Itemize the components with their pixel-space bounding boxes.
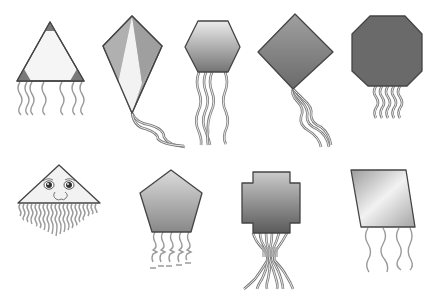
kite-tails bbox=[293, 89, 332, 147]
diamond-kite bbox=[103, 16, 185, 147]
kite-tails bbox=[150, 232, 191, 268]
pupil-left bbox=[46, 182, 52, 188]
triangle-kite bbox=[17, 22, 84, 115]
kite-body bbox=[18, 165, 100, 203]
kite-tails bbox=[366, 228, 413, 272]
kite-body bbox=[258, 14, 333, 89]
kite-body bbox=[242, 172, 300, 233]
kite-tails bbox=[196, 72, 228, 145]
pupil-right bbox=[66, 182, 72, 188]
square-diamond-kite bbox=[258, 14, 333, 147]
tail-knot bbox=[262, 247, 278, 257]
corner-accent bbox=[45, 22, 55, 31]
kite-fringe bbox=[19, 204, 97, 236]
hexagon-kite bbox=[185, 21, 240, 145]
kite-body bbox=[185, 21, 240, 72]
octagon-kite bbox=[352, 16, 422, 118]
cross-kite bbox=[242, 172, 300, 289]
kite-tails bbox=[244, 233, 293, 289]
kite-tails bbox=[132, 113, 185, 147]
kite-body bbox=[351, 170, 415, 227]
kite-body bbox=[140, 170, 202, 232]
face-triangle-kite bbox=[18, 165, 100, 236]
parallelogram-kite bbox=[351, 170, 415, 272]
kite-tails bbox=[374, 86, 402, 118]
kite-body bbox=[352, 16, 422, 86]
kites-illustration bbox=[0, 0, 434, 300]
pentagon-kite bbox=[140, 170, 202, 268]
kite-tails bbox=[18, 82, 84, 115]
